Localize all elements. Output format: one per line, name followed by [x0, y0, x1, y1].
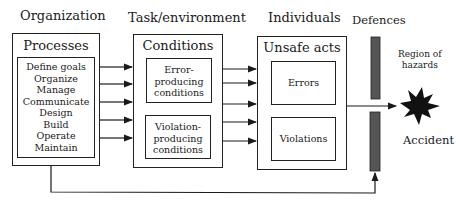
- column-organization: Organization: [20, 8, 106, 23]
- accident-label: Accident: [403, 133, 454, 147]
- accident-star-icon: [400, 87, 440, 125]
- latent-failure-pathway: [51, 166, 375, 193]
- violation-producing-conditions-box: Violation- producing conditions: [145, 115, 211, 159]
- hazards-line: hazards: [398, 60, 442, 71]
- defence-bar-bottom: [370, 112, 380, 171]
- process-item: Organize: [18, 73, 94, 85]
- unsafe-acts-box: Unsafe acts Errors Violations: [257, 36, 347, 170]
- violation-conditions-line: conditions: [146, 144, 210, 156]
- defence-bar-top: [371, 37, 380, 99]
- process-to-condition-arrows: [100, 67, 132, 138]
- error-producing-conditions-box: Error- producing conditions: [146, 58, 212, 103]
- process-item: Define goals: [18, 61, 94, 73]
- process-item: Maintain: [18, 142, 94, 154]
- errors-box: Errors: [271, 61, 336, 105]
- violation-conditions-line: producing: [146, 133, 210, 145]
- errors-label: Errors: [272, 77, 335, 89]
- process-item: Manage: [18, 84, 94, 96]
- processes-box: Processes Define goals Organize Manage C…: [12, 33, 100, 166]
- processes-title: Processes: [13, 38, 99, 53]
- processes-list-box: Define goals Organize Manage Communicate…: [17, 57, 95, 158]
- error-conditions-line: conditions: [147, 87, 211, 99]
- condition-to-act-arrows: [222, 69, 256, 141]
- column-individuals: Individuals: [268, 10, 341, 25]
- unsafe-acts-title: Unsafe acts: [258, 40, 346, 55]
- conditions-box: Conditions Error- producing conditions V…: [133, 34, 223, 168]
- process-item: Communicate: [18, 96, 94, 108]
- violation-conditions-line: Violation-: [146, 121, 210, 133]
- process-item: Design: [18, 107, 94, 119]
- error-conditions-line: producing: [147, 76, 211, 88]
- process-item: Operate: [18, 130, 94, 142]
- region-of-hazards-label: Region of hazards: [398, 49, 442, 71]
- column-defences: Defences: [352, 13, 406, 27]
- conditions-title: Conditions: [134, 38, 222, 53]
- hazards-line: Region of: [398, 49, 442, 60]
- column-task-environment: Task/environment: [128, 10, 246, 25]
- violations-label: Violations: [272, 133, 335, 145]
- process-item: Build: [18, 119, 94, 131]
- processes-list: Define goals Organize Manage Communicate…: [18, 61, 94, 153]
- error-conditions-line: Error-: [147, 64, 211, 76]
- violations-box: Violations: [271, 117, 336, 161]
